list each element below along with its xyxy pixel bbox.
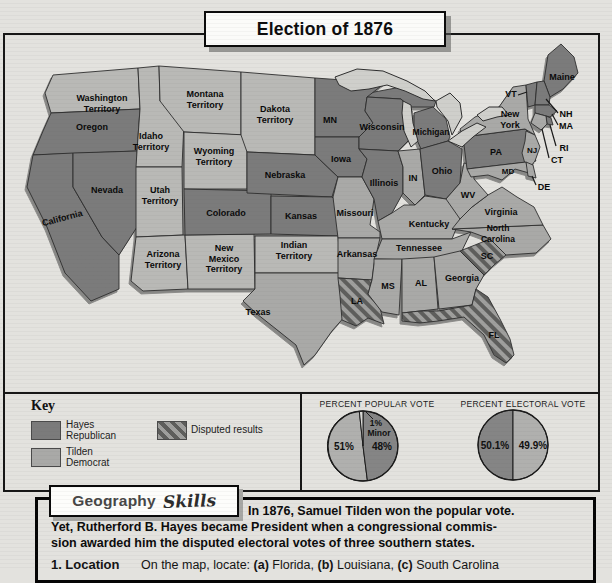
disputed-results-swatch-icon bbox=[157, 421, 187, 440]
state-label-delaware: DE bbox=[538, 182, 551, 192]
state-label-ohio: Ohio bbox=[432, 166, 453, 176]
state-label-mississippi: MS bbox=[381, 281, 395, 291]
state-label-virginia: Virginia bbox=[485, 207, 519, 217]
figure-title-box: Election of 1876 bbox=[204, 11, 446, 47]
figure-title: Election of 1876 bbox=[257, 19, 393, 40]
question-item-text: South Carolina bbox=[413, 558, 499, 572]
state-label-wisconsin: Wisconsin bbox=[360, 122, 405, 132]
vote-pie-charts: 51%48%1%Minor50.1%49.9% bbox=[302, 394, 596, 486]
state-label-new_york: NewYork bbox=[500, 109, 520, 130]
state-label-minnesota: MN bbox=[323, 115, 337, 125]
question-item-marker: (c) bbox=[397, 558, 412, 572]
skills-paragraph-line: sion awarded him the disputed electoral … bbox=[51, 535, 585, 551]
state-label-washington_territory: WashingtonTerritory bbox=[76, 93, 127, 114]
state-label-nevada: Nevada bbox=[91, 185, 124, 195]
question-item-text: Louisiana, bbox=[333, 558, 397, 572]
state-oregon bbox=[33, 109, 140, 155]
skills-paragraph-line: Yet, Rutherford B. Hayes became Presiden… bbox=[51, 519, 585, 535]
state-maine bbox=[544, 44, 578, 97]
state-label-arizona_territory: ArizonaTerritory bbox=[145, 249, 181, 270]
state-label-louisiana: LA bbox=[351, 296, 363, 306]
vote-charts-panel: PERCENT POPULAR VOTE PERCENT ELECTORAL V… bbox=[300, 394, 598, 490]
question-item-marker: (b) bbox=[317, 558, 333, 572]
question-items: (a) Florida, (b) Louisiana, (c) South Ca… bbox=[254, 558, 499, 572]
state-label-maine: Maine bbox=[549, 72, 575, 82]
state-label-massachusetts: MA bbox=[559, 121, 573, 131]
pie0-slice-label: 51% bbox=[334, 441, 354, 452]
tilden-democrat-label: Tilden Democrat bbox=[66, 447, 109, 468]
question-label: Location bbox=[65, 557, 119, 572]
state-label-new_jersey: NJ bbox=[527, 146, 537, 155]
state-label-vermont: VT bbox=[505, 89, 517, 99]
skills-heading: Skills bbox=[162, 490, 216, 512]
pie0-slice-label: 48% bbox=[372, 441, 392, 452]
state-label-georgia: Georgia bbox=[445, 273, 480, 283]
question-item-marker: (a) bbox=[254, 558, 269, 572]
state-connecticut bbox=[531, 113, 547, 130]
state-label-connecticut: CT bbox=[551, 155, 563, 165]
state-label-tennessee: Tennessee bbox=[396, 243, 442, 253]
skills-question-1: 1. Location On the map, locate: (a) Flor… bbox=[51, 557, 593, 572]
state-label-illinois: Illinois bbox=[370, 178, 399, 188]
state-label-pennsylvania: PA bbox=[490, 147, 502, 157]
disputed-results-label: Disputed results bbox=[191, 425, 263, 436]
pie0-slice-label: Minor bbox=[367, 428, 391, 438]
state-label-south_carolina: SC bbox=[481, 251, 494, 261]
state-label-colorado: Colorado bbox=[206, 208, 246, 218]
state-label-oregon: Oregon bbox=[76, 122, 108, 132]
state-label-montana_territory: MontanaTerritory bbox=[187, 89, 225, 110]
state-label-texas: Texas bbox=[246, 307, 271, 317]
state-label-arkansas: Arkansas bbox=[337, 249, 378, 259]
state-label-michigan: Michigan bbox=[413, 127, 450, 137]
pie1-slice-label: 49.9% bbox=[519, 440, 547, 451]
state-label-west_virginia: WV bbox=[461, 190, 476, 200]
geography-skills-header: Geography Skills bbox=[49, 485, 239, 517]
legend-and-charts-panel: Key Hayes Republican Tilden Democrat Dis… bbox=[3, 392, 600, 492]
state-label-kentucky: Kentucky bbox=[409, 219, 450, 229]
tilden-democrat-swatch-icon bbox=[31, 448, 61, 467]
state-label-rhode_island: RI bbox=[560, 143, 569, 153]
state-texas bbox=[243, 273, 353, 365]
state-label-florida: FL bbox=[489, 330, 500, 340]
leader-line-rhode_island bbox=[550, 125, 556, 146]
state-label-indian_territory: IndianTerritory bbox=[276, 240, 312, 261]
state-label-wyoming_territory: WyomingTerritory bbox=[194, 146, 234, 167]
pie0-slice-label: 1% bbox=[370, 418, 383, 428]
question-item-text: Florida, bbox=[269, 558, 318, 572]
state-label-alabama: AL bbox=[415, 278, 427, 288]
state-label-missouri: Missouri bbox=[336, 208, 373, 218]
state-label-iowa: Iowa bbox=[331, 154, 352, 164]
state-label-maryland: MD bbox=[502, 167, 515, 176]
hayes-republican-label: Hayes Republican bbox=[66, 420, 116, 441]
question-lead: On the map, locate: bbox=[141, 558, 250, 572]
map-key: Key Hayes Republican Tilden Democrat Dis… bbox=[5, 394, 300, 490]
question-number: 1. bbox=[51, 557, 62, 572]
state-label-kansas: Kansas bbox=[285, 211, 317, 221]
state-label-dakota_territory: DakotaTerritory bbox=[257, 104, 293, 125]
state-label-indiana: IN bbox=[409, 173, 418, 183]
hayes-republican-swatch-icon bbox=[31, 421, 61, 440]
election-map-1876: WashingtonTerritoryOregonCaliforniaNevad… bbox=[5, 35, 600, 394]
geography-heading: Geography bbox=[72, 492, 156, 510]
state-label-nebraska: Nebraska bbox=[265, 170, 307, 180]
state-delaware bbox=[526, 162, 536, 178]
state-label-new_hampshire: NH bbox=[560, 109, 573, 119]
pie1-slice-label: 50.1% bbox=[481, 440, 509, 451]
leader-line-connecticut bbox=[542, 129, 549, 158]
key-title: Key bbox=[31, 398, 55, 414]
